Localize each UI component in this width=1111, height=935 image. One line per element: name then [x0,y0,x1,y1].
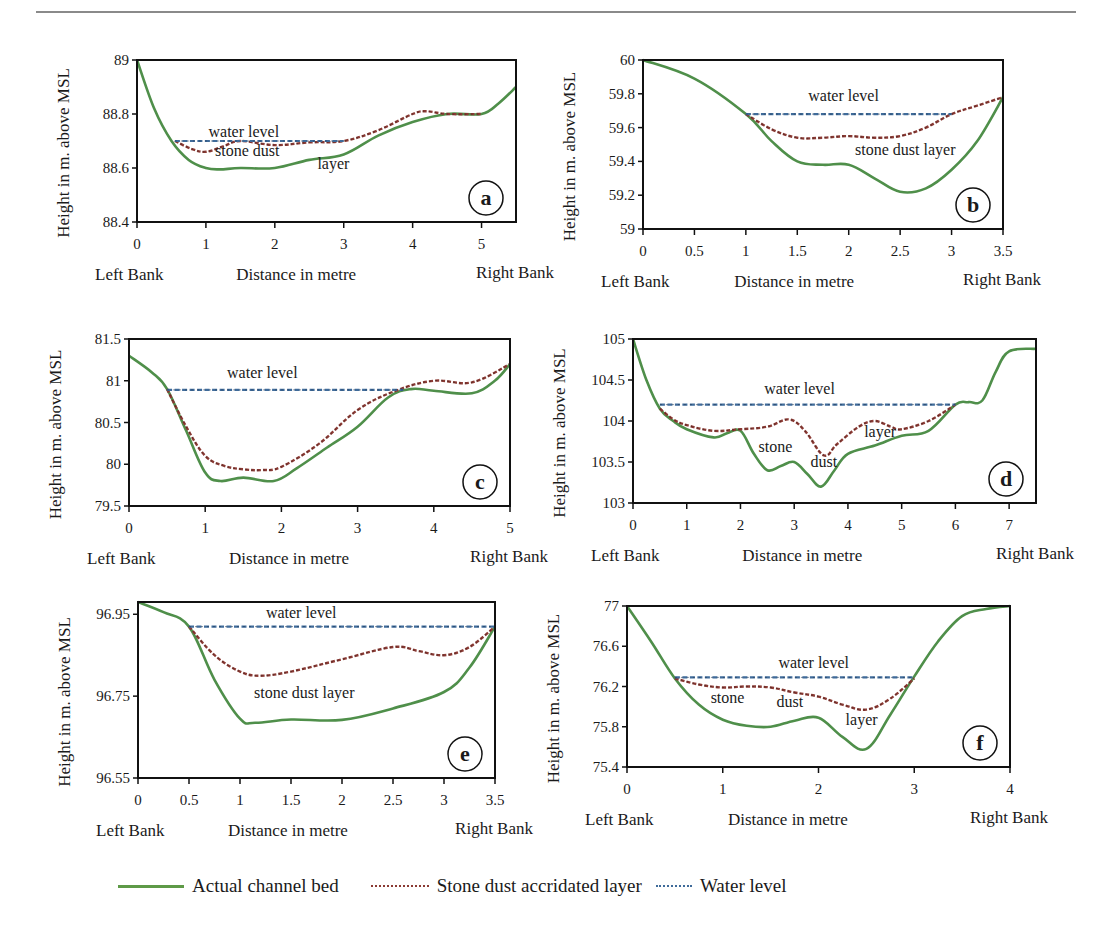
legend-item-actual-channel-bed: Actual channel bed [118,875,339,897]
y-tick-label: 77 [604,598,620,614]
plot-frame [627,606,1010,767]
x-axis-label: Distance in metre [728,810,848,829]
dotted-line-swatch-icon [656,885,692,887]
plot-area [627,606,1010,750]
left-bank-label: Left Bank [585,810,654,829]
y-axis-label: Height in m. above MSL [544,614,563,784]
annotation-label: water level [778,654,849,671]
solid-line-swatch-icon [118,885,184,888]
legend-item-stone-dust-layer: Stone dust accridated layer [371,875,642,897]
legend-item-water-level: Water level [656,875,787,897]
panel-badge-label: f [976,730,984,755]
x-tick-label: 1 [719,781,727,797]
x-tick-label: 0 [623,781,631,797]
y-tick-label: 75.4 [593,759,620,775]
annotation-label: stone [711,689,745,706]
chart-legend: Actual channel bed Stone dust accridated… [118,873,800,899]
right-bank-label: Right Bank [970,808,1048,827]
y-tick-label: 76.2 [593,679,619,695]
x-tick-label: 4 [1006,781,1014,797]
legend-label: Water level [700,875,787,897]
legend-label: Actual channel bed [192,875,339,897]
chart-svg: 75.475.876.276.67701234Height in m. abov… [0,0,1111,935]
x-tick-label: 3 [911,781,919,797]
x-tick-label: 2 [815,781,823,797]
annotation-label: dust [776,693,803,710]
dotted-line-swatch-icon [371,885,429,887]
y-tick-label: 76.6 [593,638,620,654]
legend-label: Stone dust accridated layer [437,875,642,897]
annotation-label: layer [846,711,879,729]
y-tick-label: 75.8 [593,719,619,735]
